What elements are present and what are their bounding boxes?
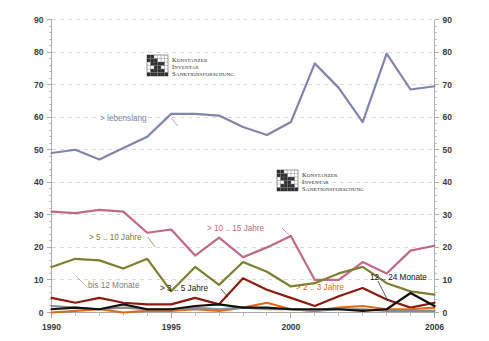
- logo-grid-cell: [151, 55, 155, 59]
- logo-grid-cell: [281, 177, 285, 181]
- logo-grid-cell: [158, 66, 162, 70]
- logo-grid-cell: [295, 188, 299, 192]
- watermark-line-2: INVENTAR: [302, 178, 329, 185]
- logo-grid-cell: [151, 73, 155, 77]
- logo-grid-cell: [291, 188, 295, 192]
- y-axis-tick-label: 40: [34, 177, 44, 187]
- series-label: bis 12 Monate: [88, 281, 140, 290]
- y-axis-tick-label: 0: [443, 308, 448, 318]
- logo-grid-cell: [277, 188, 281, 192]
- logo-grid-cell: [161, 73, 165, 77]
- y-axis-tick-label: 70: [34, 80, 44, 90]
- y-axis-tick-label: 20: [443, 242, 453, 252]
- logo-grid-cell: [281, 184, 285, 188]
- logo-grid-cell: [288, 177, 292, 181]
- logo-grid-cell: [147, 59, 151, 63]
- logo-grid-cell: [281, 174, 285, 178]
- logo-grid-cell: [281, 170, 285, 174]
- y-axis-tick-label: 90: [34, 15, 44, 25]
- logo-grid-cell: [281, 188, 285, 192]
- series-label: > 10 .. 15 Jahre: [207, 224, 265, 233]
- watermark-line-1: KONSTANZER: [172, 56, 208, 63]
- x-axis-tick-label: 2000: [281, 322, 300, 332]
- series-label: > lebenslang: [100, 114, 147, 123]
- x-axis-tick-label: 1990: [42, 322, 61, 332]
- logo-grid-cell: [158, 62, 162, 66]
- y-axis-tick-label: 80: [443, 47, 453, 57]
- logo-grid-cell: [154, 73, 158, 77]
- logo-grid-cell: [284, 184, 288, 188]
- logo-grid-cell: [288, 184, 292, 188]
- watermark-line-3: SANKTIONSFORSCHUNG: [172, 70, 234, 77]
- logo-grid-cell: [165, 73, 169, 77]
- logo-grid-cell: [288, 181, 292, 185]
- series-label: 12 .. 24 Monate: [370, 273, 427, 282]
- logo-grid-cell: [277, 174, 281, 178]
- y-axis-tick-label: 30: [34, 210, 44, 220]
- logo-grid-cell: [284, 174, 288, 178]
- logo-grid-cell: [284, 181, 288, 185]
- x-axis-tick-label: 2006: [425, 322, 444, 332]
- watermark-line-1: KONSTANZER: [302, 171, 338, 178]
- logo-grid-cell: [277, 170, 281, 174]
- y-axis-tick-label: 50: [34, 145, 44, 155]
- y-axis-tick-label: 70: [443, 80, 453, 90]
- logo-grid-cell: [158, 69, 162, 73]
- x-axis-tick-label: 1995: [162, 322, 181, 332]
- series-label: > 5 .. 10 Jahre: [89, 233, 142, 242]
- logo-grid-cell: [151, 62, 155, 66]
- logo-grid-cell: [284, 188, 288, 192]
- logo-grid-cell: [154, 66, 158, 70]
- logo-grid-cell: [161, 69, 165, 73]
- y-axis-tick-label: 30: [443, 210, 453, 220]
- y-axis-tick-label: 10: [443, 275, 453, 285]
- y-axis-tick-label: 10: [34, 275, 44, 285]
- logo-grid-cell: [158, 73, 162, 77]
- y-axis-tick-label: 60: [443, 112, 453, 122]
- y-axis-tick-label: 40: [443, 177, 453, 187]
- logo-grid-cell: [154, 69, 158, 73]
- logo-grid-cell: [154, 62, 158, 66]
- logo-grid-cell: [284, 177, 288, 181]
- logo-grid-cell: [147, 55, 151, 59]
- y-axis-tick-label: 0: [39, 308, 44, 318]
- y-axis-tick-label: 50: [443, 145, 453, 155]
- logo-grid-cell: [151, 69, 155, 73]
- chart-container: 0102030405060708090 0102030405060708090 …: [0, 0, 489, 341]
- y-axis-tick-label: 90: [443, 15, 453, 25]
- watermark-line-3: SANKTIONSFORSCHUNG: [302, 185, 364, 192]
- logo-grid-cell: [291, 184, 295, 188]
- logo-grid-cell: [288, 188, 292, 192]
- logo-grid-cell: [147, 73, 151, 77]
- y-axis-tick-label: 60: [34, 112, 44, 122]
- watermark-line-2: INVENTAR: [172, 63, 199, 70]
- y-axis-tick-label: 20: [34, 242, 44, 252]
- series-label: > 2 .. 3 Jahre: [296, 283, 344, 292]
- logo-grid-cell: [161, 62, 165, 66]
- series-label: > 3 .. 5 Jahre: [160, 284, 208, 293]
- chart-background: [0, 0, 489, 341]
- logo-grid-cell: [154, 59, 158, 63]
- y-axis-tick-label: 80: [34, 47, 44, 57]
- line-chart: 0102030405060708090 0102030405060708090 …: [0, 0, 489, 341]
- logo-grid-cell: [151, 59, 155, 63]
- logo-grid-cell: [291, 177, 295, 181]
